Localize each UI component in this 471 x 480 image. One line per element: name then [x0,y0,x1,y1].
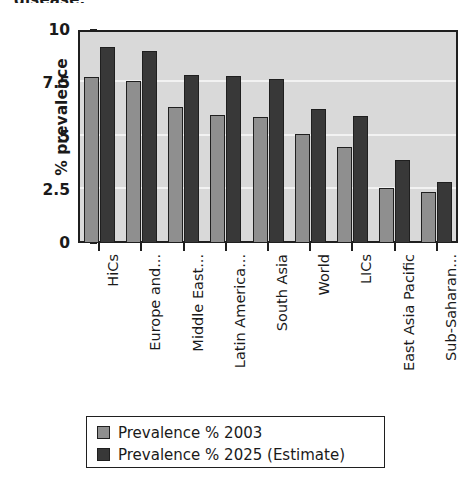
x-tick-mark [351,243,353,251]
bar [210,115,225,243]
x-tick-mark [98,243,100,251]
x-tick-label: World [316,254,332,296]
bar-chart: % prevalence 02.557.510 HiCsEurope and..… [0,0,471,400]
bar [421,192,436,243]
x-tick-label: Latin America... [232,254,248,368]
bar [84,77,99,243]
x-tick-mark [140,243,142,251]
bar [295,134,310,243]
x-tick-mark [394,243,396,251]
legend-swatch-2025 [97,448,110,461]
chart-legend: Prevalence % 2003 Prevalence % 2025 (Est… [86,416,385,468]
x-tick-mark [267,243,269,251]
bar [226,76,241,243]
x-tick-label: South Asia [274,254,290,331]
bar [253,117,268,243]
x-tick-label: HiCs [105,254,121,287]
y-tick-label: 2.5 [22,181,70,199]
x-tick-label: Middle East... [190,254,206,352]
legend-label-2025: Prevalence % 2025 (Estimate) [118,446,345,464]
y-tick-label: 10 [22,21,70,39]
y-tick-label: 0 [22,234,70,252]
x-tick-label: East Asia Pacific [401,254,417,371]
bar [353,116,368,243]
x-tick-label: LICs [358,254,374,284]
legend-item-2003: Prevalence % 2003 [97,422,384,443]
bar [142,51,157,243]
legend-item-2025: Prevalence % 2025 (Estimate) [97,444,384,465]
bar [126,81,141,243]
x-tick-label: Europe and... [147,254,163,351]
x-tick-mark [225,243,227,251]
y-tick-label: 7.5 [22,74,70,92]
bar [395,160,410,243]
x-tick-mark [436,243,438,251]
x-tick-mark [309,243,311,251]
bar [100,47,115,243]
x-tick-label: Sub-Saharan... [443,254,459,361]
bar [379,188,394,243]
bar [437,182,452,243]
bar [311,109,326,243]
legend-swatch-2003 [97,426,110,439]
bar [184,75,199,243]
bar [168,107,183,243]
bar [337,147,352,243]
x-tick-mark [183,243,185,251]
y-tick-label: 5 [22,128,70,146]
legend-label-2003: Prevalence % 2003 [118,424,262,442]
bar [269,79,284,243]
y-axis-tick-labels: 02.557.510 [20,30,70,243]
